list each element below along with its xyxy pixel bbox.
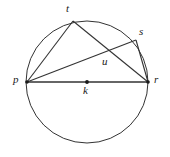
vertex-label-s: s: [139, 26, 143, 37]
segment-s-r: [136, 40, 148, 82]
vertex-label-u: u: [102, 56, 108, 67]
point-dot-p: [25, 80, 29, 84]
vertex-label-r: r: [154, 74, 158, 85]
vertex-label-k: k: [83, 85, 88, 96]
vertex-label-t: t: [66, 3, 69, 14]
vertex-label-p: p: [13, 74, 19, 85]
geometry-canvas: [0, 0, 170, 157]
point-dot-r: [146, 80, 150, 84]
geometry-figure: t s p r u k: [0, 0, 170, 157]
segment-t-r: [73, 21, 148, 82]
